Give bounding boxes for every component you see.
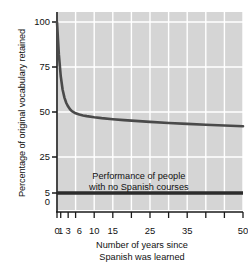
x-tick-label: 35 (175, 225, 199, 236)
baseline-annotation-line2: with no Spanish courses (75, 182, 203, 194)
x-tick-label: 15 (101, 225, 125, 236)
x-tick-label: 25 (138, 225, 162, 236)
x-axis-title-line2: Spanish was learned (42, 252, 242, 264)
x-axis-title: Number of years since Spanish was learne… (42, 240, 242, 263)
forgetting-curve-figure: Percentage of original vocabulary retain… (0, 0, 248, 270)
x-tick-label: 50 (231, 225, 248, 236)
baseline-annotation: Performance of people with no Spanish co… (75, 171, 203, 194)
x-axis-title-line1: Number of years since (42, 240, 242, 252)
baseline-annotation-line1: Performance of people (75, 171, 203, 183)
